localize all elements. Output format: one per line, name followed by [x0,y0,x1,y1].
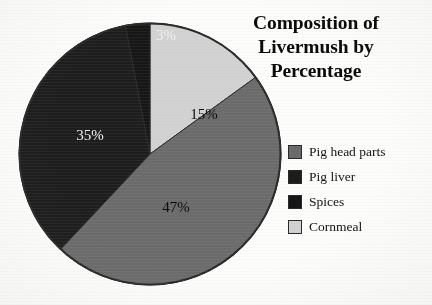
legend-label-pig-liver: Pig liver [309,170,355,184]
chart-title-line-3: Percentage [209,59,423,83]
legend-label-spices: Spices [309,195,344,209]
legend-swatch-icon-pig-liver [288,170,302,184]
legend-swatch-icon-spices [288,195,302,209]
pie-slice-value-label: 47% [162,199,190,215]
legend-item-cornmeal: Cornmeal [288,216,386,238]
legend-swatch-icon-cornmeal [288,220,302,234]
legend-label-pig-head-parts: Pig head parts [309,145,386,159]
pie-slice-value-label: 35% [76,127,104,143]
chart-legend: Pig head parts Pig liver Spices Cornmeal [288,141,386,241]
legend-swatch-icon-pig-head-parts [288,145,302,159]
pie-slice-value-label: 3% [156,27,176,43]
chart-title-line-1: Composition of [209,11,423,35]
chart-title: Composition of Livermush by Percentage [209,11,423,84]
pie-chart-figure: 3%15%47%35% Composition of Livermush by … [0,0,432,305]
legend-item-pig-head-parts: Pig head parts [288,141,386,163]
legend-label-cornmeal: Cornmeal [309,220,362,234]
chart-title-line-2: Livermush by [209,35,423,59]
legend-item-pig-liver: Pig liver [288,166,386,188]
legend-item-spices: Spices [288,191,386,213]
pie-slice-value-label: 15% [190,106,218,122]
